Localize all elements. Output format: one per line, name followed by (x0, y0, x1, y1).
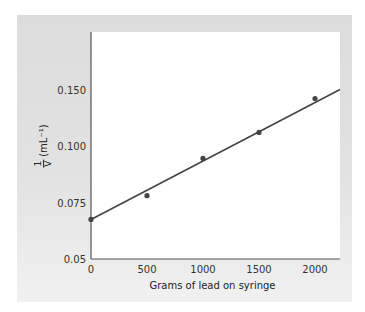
data-point (144, 193, 149, 198)
y-axis-denominator: V (44, 161, 53, 167)
x-tick-label: 0 (88, 264, 94, 275)
y-tick-label: 0.100 (57, 141, 86, 152)
fit-line (91, 90, 340, 220)
data-point (312, 96, 317, 101)
x-tick-label: 1500 (246, 264, 271, 275)
x-tick-label: 500 (137, 264, 156, 275)
y-tick-label: 0.150 (57, 85, 86, 96)
x-tick-label: 1000 (190, 264, 215, 275)
x-axis-title: Grams of lead on syringe (0, 280, 365, 291)
y-axis-fraction: 1 V (34, 160, 53, 168)
y-tick-label: 0.075 (57, 198, 86, 209)
data-point (88, 217, 93, 222)
y-axis-units: (mL⁻¹) (38, 124, 49, 156)
data-point (256, 130, 261, 135)
data-point (200, 156, 205, 161)
y-axis-title: 1 V (mL⁻¹) (34, 124, 53, 167)
x-tick-label: 2000 (302, 264, 327, 275)
regression-line (91, 90, 340, 220)
y-tick-label: 0.05 (64, 254, 86, 265)
